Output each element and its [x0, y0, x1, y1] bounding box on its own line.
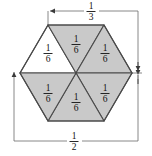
fraction-denominator: 6 — [46, 54, 51, 64]
fraction-denominator: 6 — [46, 94, 51, 104]
fraction-numerator: 1 — [74, 34, 79, 44]
fraction-denominator: 6 — [74, 45, 79, 55]
fraction-denominator: 6 — [103, 54, 108, 64]
fraction-denominator: 3 — [89, 12, 94, 22]
fraction-numerator: 1 — [74, 92, 79, 102]
fraction-numerator: 1 — [72, 131, 77, 141]
label-dimension-top: 1 3 — [87, 1, 96, 22]
fraction-numerator: 1 — [103, 83, 108, 93]
figure-canvas: 1 6 1 6 1 6 1 6 — [0, 0, 152, 156]
fraction-denominator: 6 — [74, 103, 79, 113]
fraction-denominator: 2 — [72, 142, 77, 152]
fraction-numerator: 1 — [46, 43, 51, 53]
fraction-numerator: 1 — [46, 83, 51, 93]
fraction-numerator: 1 — [103, 43, 108, 53]
label-dimension-bottom: 1 2 — [70, 131, 79, 152]
fraction-denominator: 6 — [103, 94, 108, 104]
hexagon-fraction-figure: 1 6 1 6 1 6 1 6 — [0, 0, 152, 156]
fraction-numerator: 1 — [89, 1, 94, 11]
